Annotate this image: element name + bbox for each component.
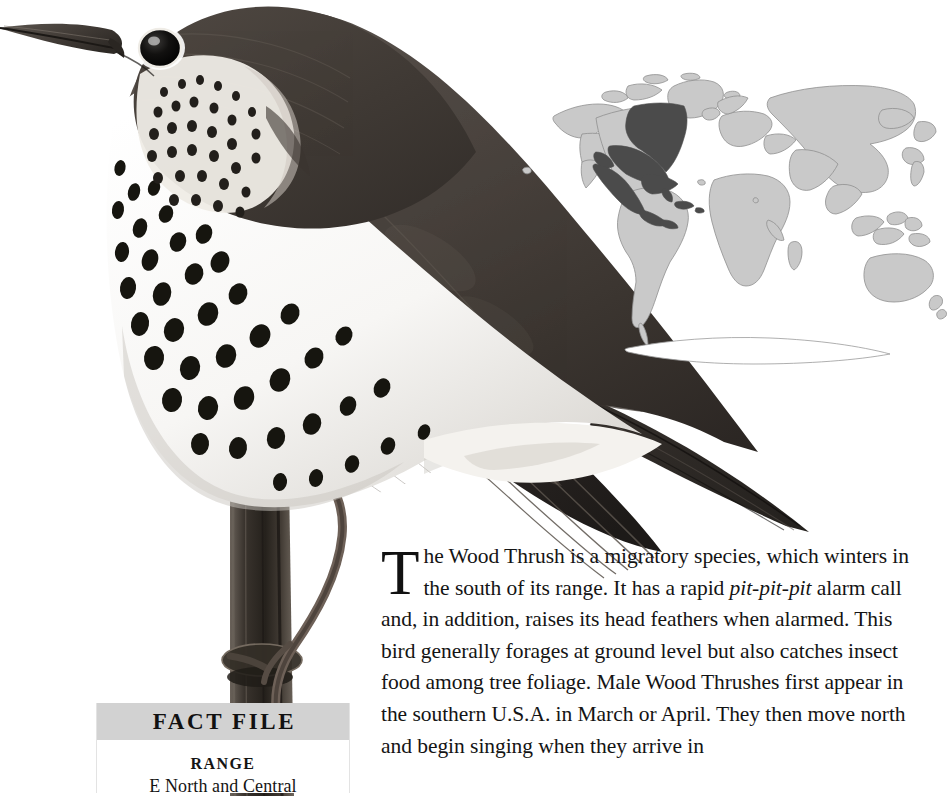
bird-head [0, 7, 476, 229]
article-run-italic: pit-pit-pit [730, 576, 812, 600]
fact-file-title: FACT FILE [150, 709, 296, 735]
fact-file-panel: FACT FILE RANGE E North and Central [96, 703, 350, 793]
cheek-speckles [147, 75, 261, 218]
article-run-2: alarm call and, in addition, raises its … [381, 576, 906, 758]
bird-tail [566, 394, 809, 532]
bird-bill [0, 24, 124, 58]
fact-file-range-value: E North and Central [97, 776, 349, 797]
world-range-map [478, 62, 948, 388]
breast-spots [111, 159, 433, 492]
map-land-masses [523, 73, 947, 364]
drop-cap: T [381, 543, 423, 599]
bird-vent [424, 423, 662, 483]
fact-file-body: RANGE E North and Central [97, 740, 349, 797]
fact-file-header: FACT FILE [97, 703, 349, 740]
bird-eye [135, 26, 185, 70]
bird-legs [230, 446, 342, 710]
article-body-text: The Wood Thrush is a migratory species, … [381, 541, 931, 762]
fact-file-range-label: RANGE [97, 755, 349, 773]
